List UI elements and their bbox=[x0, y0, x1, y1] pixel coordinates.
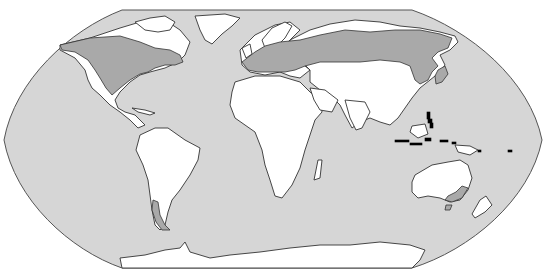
world-map bbox=[0, 0, 545, 278]
